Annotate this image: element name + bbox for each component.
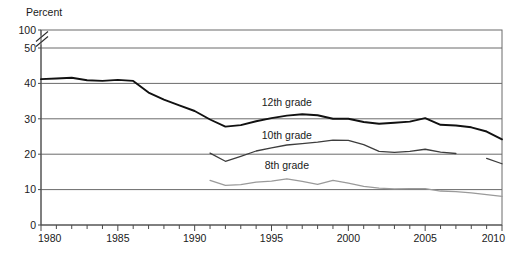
x-tick-label-1980: 1980 [38,232,62,244]
series-line-10th-grade [210,140,456,161]
line-chart: 0102030405010019801985199019952000200520… [0,0,517,254]
y-tick-label-0: 0 [30,219,36,231]
y-tick-label-50: 50 [24,42,36,54]
series-line-8th-grade [210,179,502,196]
series-line-10th-grade-break-segment [487,158,502,163]
x-tick-label-2005: 2005 [413,232,437,244]
series-label-12th-grade: 12th grade [262,96,312,108]
series-label-10th-grade: 10th grade [262,129,312,141]
x-tick-label-1995: 1995 [260,232,284,244]
y-tick-label-100: 100 [18,24,36,36]
x-tick-label-1990: 1990 [183,232,207,244]
y-tick-label-10: 10 [24,183,36,195]
chart-container: 0102030405010019801985199019952000200520… [0,0,517,254]
x-tick-label-2010: 2010 [482,232,506,244]
y-tick-label-20: 20 [24,148,36,160]
y-tick-label-40: 40 [24,77,36,89]
y-tick-label-30: 30 [24,113,36,125]
plot-frame [41,30,502,225]
series-label-8th-grade: 8th grade [265,159,310,171]
x-tick-label-2000: 2000 [337,232,361,244]
x-tick-label-1985: 1985 [106,232,130,244]
y-axis-unit-label: Percent [26,6,62,18]
